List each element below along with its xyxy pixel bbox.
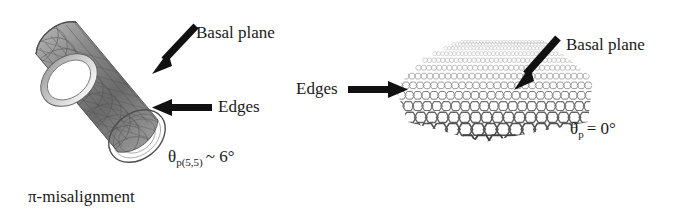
right-edges-label: Edges bbox=[296, 80, 338, 97]
left-edges-label: Edges bbox=[218, 98, 260, 115]
right-theta-subscript: p bbox=[578, 128, 584, 140]
right-theta-symbol: θ bbox=[570, 119, 578, 138]
left-basal-plane-label: Basal plane bbox=[196, 24, 275, 41]
left-theta-relation: ~ 6° bbox=[206, 147, 235, 166]
graphene-hex-rows bbox=[388, 41, 598, 145]
left-edges-arrow bbox=[152, 97, 212, 119]
right-theta-relation: = 0° bbox=[587, 119, 616, 138]
figure-canvas: Basal plane Edges θp(5,5)~ 6° π-misalign… bbox=[0, 0, 699, 217]
left-theta-symbol: θ bbox=[168, 147, 176, 166]
right-theta-label: θp= 0° bbox=[570, 120, 616, 140]
left-theta-subscript: p(5,5) bbox=[176, 156, 203, 168]
right-basal-plane-arrow bbox=[504, 34, 564, 94]
right-basal-plane-label: Basal plane bbox=[566, 36, 645, 53]
left-theta-label: θp(5,5)~ 6° bbox=[168, 148, 234, 168]
right-edges-arrow bbox=[348, 79, 408, 101]
pi-misalignment-caption: π-misalignment bbox=[28, 188, 135, 205]
